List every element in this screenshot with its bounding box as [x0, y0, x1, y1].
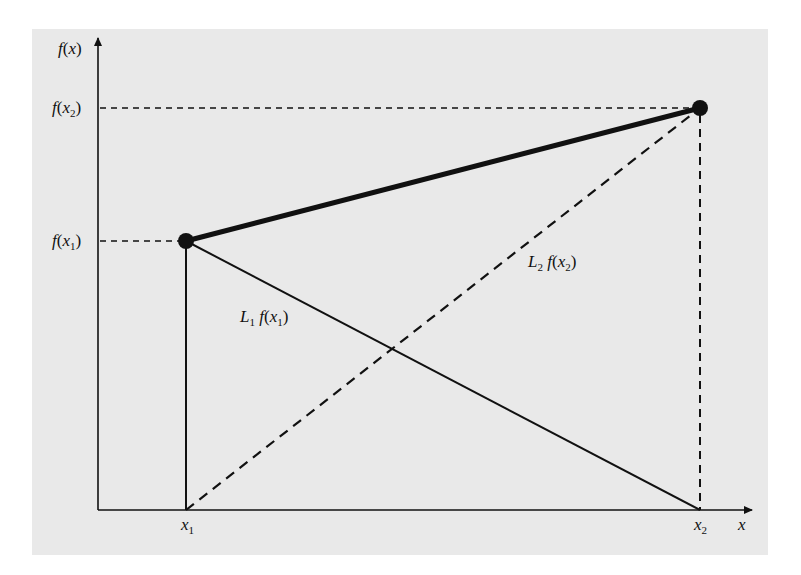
- label-var: x: [694, 515, 702, 534]
- point-x2-fx2: [692, 100, 708, 116]
- label-var: x: [62, 98, 70, 117]
- label-sub: 1: [249, 316, 255, 328]
- label-sub: 2: [537, 261, 543, 273]
- x-axis-label: x: [738, 516, 746, 533]
- L2-fx2-label: L2 f(x2): [528, 253, 576, 273]
- y-axis-label: f(x): [58, 40, 82, 57]
- label-paren: ): [76, 39, 82, 58]
- interpolant-line: [186, 108, 700, 241]
- label-paren: ): [75, 98, 81, 117]
- x-tick-x1-label: x1: [181, 516, 194, 536]
- label-var: x: [181, 515, 189, 534]
- interpolation-diagram: [0, 0, 801, 575]
- point-x1-fx1: [178, 233, 194, 249]
- label-var: x: [738, 515, 746, 534]
- line-L1-fx1: [186, 241, 700, 510]
- label-paren: ): [75, 231, 81, 250]
- label-sub: 2: [702, 524, 708, 536]
- y-tick-fx2-label: f(x2): [52, 99, 81, 119]
- label-var: x: [62, 231, 70, 250]
- label-sub: 1: [189, 524, 195, 536]
- y-tick-fx1-label: f(x1): [52, 232, 81, 252]
- x-tick-x2-label: x2: [694, 516, 707, 536]
- label-var: x: [68, 39, 76, 58]
- L1-fx1-label: L1 f(x1): [240, 308, 288, 328]
- figure: f(x) f(x2) f(x1) L1 f(x1) L2 f(x2) x1 x2…: [0, 0, 801, 575]
- label-paren: ): [283, 307, 289, 326]
- label-paren: ): [571, 252, 577, 271]
